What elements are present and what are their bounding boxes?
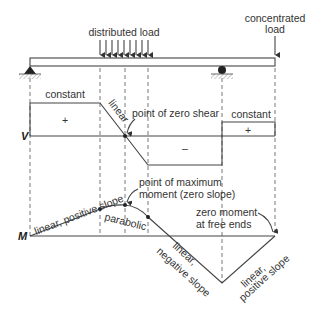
zero-moment-label-2: at free ends bbox=[196, 218, 251, 230]
distributed-load-arrows bbox=[100, 40, 148, 55]
concentrated-load-label-2: load bbox=[265, 23, 285, 35]
m-axis-label: M bbox=[18, 230, 28, 242]
zero-moment-arrow bbox=[258, 213, 273, 232]
max-moment-label-1: point of maximum bbox=[139, 176, 222, 188]
zero-shear-arrow bbox=[127, 119, 135, 133]
minus-label: – bbox=[182, 142, 188, 154]
parabolic-label: parabolic bbox=[104, 210, 148, 232]
zero-shear-label: point of zero shear bbox=[132, 107, 219, 119]
constant-left-label: constant bbox=[45, 88, 85, 100]
zero-moment-label-1: zero moment bbox=[196, 206, 257, 218]
linear-shear-label: linear bbox=[106, 97, 132, 125]
moment-point-3 bbox=[146, 215, 150, 219]
max-moment-point bbox=[123, 203, 127, 207]
plus-right-label: + bbox=[245, 124, 251, 136]
constant-right-label: constant bbox=[231, 108, 271, 120]
distributed-load-label: distributed load bbox=[88, 26, 159, 38]
max-moment-arrow bbox=[127, 189, 138, 202]
beam bbox=[30, 58, 275, 66]
pin-support-icon bbox=[19, 66, 41, 79]
v-axis-label: V bbox=[21, 130, 30, 142]
beam-shear-moment-diagram: distributed load concentrated load V con… bbox=[0, 0, 317, 313]
zero-shear-point bbox=[123, 134, 127, 138]
max-moment-label-2: moment (zero slope) bbox=[139, 188, 235, 200]
plus-left-label: + bbox=[62, 114, 68, 126]
roller-support-icon bbox=[211, 66, 233, 79]
